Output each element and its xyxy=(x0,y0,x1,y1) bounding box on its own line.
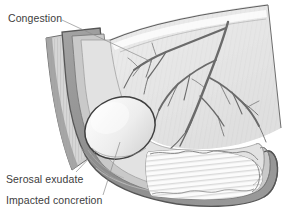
label-congestion: Congestion xyxy=(8,12,62,24)
label-serosal-exudate: Serosal exudate xyxy=(6,173,83,185)
label-impacted-concretion: Impacted concretion xyxy=(6,194,103,206)
appendicitis-illustration: Congestion Serosal exudate Impacted conc… xyxy=(0,0,290,221)
appendicitis-figure: Congestion Serosal exudate Impacted conc… xyxy=(0,0,290,221)
